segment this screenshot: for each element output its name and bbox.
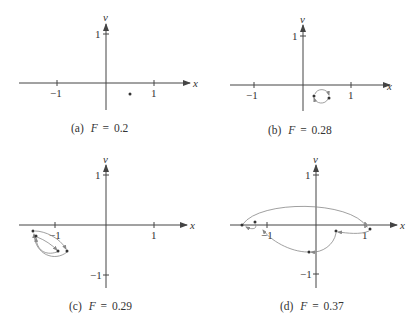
orbit-arc — [314, 98, 328, 103]
orbit-point — [254, 221, 257, 224]
tick-label-v-neg1: −1 — [90, 269, 102, 281]
caption-c: (c) F = 0.29 — [69, 300, 132, 313]
tick-label-x-1: 1 — [348, 89, 354, 101]
tick-label-v-1: 1 — [305, 169, 311, 181]
panel-a: −1 1 1 x v (a) F = 0.2 — [19, 11, 198, 135]
orbit-point — [57, 250, 60, 253]
panel-c: −1 1 1 −1 x v (c) F = 0.29 — [19, 153, 195, 313]
orbit-point — [335, 230, 338, 233]
orbit-point — [313, 95, 316, 98]
v-axis-label: v — [300, 13, 305, 25]
orbit-point — [328, 97, 331, 100]
orbit-point — [32, 230, 35, 233]
tick-label-v-1: 1 — [95, 169, 101, 181]
figure-canvas: −1 1 1 x v (a) F = 0.2 −1 1 1 x v (b) F … — [0, 0, 415, 327]
tick-label-v-1: 1 — [95, 28, 101, 40]
orbit-point — [241, 224, 244, 227]
orbit-point — [129, 93, 132, 96]
tick-label-x-1: 1 — [151, 229, 157, 241]
tick-label-v-1: 1 — [292, 30, 298, 42]
orbit-arc — [243, 206, 367, 227]
orbit-arc — [315, 90, 329, 95]
tick-label-x-neg1: −1 — [50, 87, 62, 99]
tick-label-x-1: 1 — [151, 87, 157, 99]
v-axis-label: v — [313, 153, 318, 165]
caption-a: (a) F = 0.2 — [71, 122, 129, 135]
caption-d: (d) F = 0.37 — [280, 300, 344, 313]
orbit-point — [35, 235, 38, 238]
v-axis-label: v — [103, 153, 108, 165]
x-axis-label: x — [192, 77, 198, 89]
v-axis-label: v — [103, 11, 108, 23]
orbit-point — [66, 250, 69, 253]
orbit-point — [308, 251, 311, 254]
tick-label-x-neg1: −1 — [246, 89, 258, 101]
tick-label-x-1: 1 — [362, 229, 368, 241]
caption-b: (b) F = 0.28 — [268, 124, 332, 137]
x-axis-label: x — [386, 80, 392, 92]
orbit-point — [369, 228, 372, 231]
panel-b: −1 1 1 x v (b) F = 0.28 — [230, 13, 392, 137]
x-axis-label: x — [189, 219, 195, 231]
x-axis-label: x — [399, 219, 405, 231]
panel-d: −1 1 1 −1 x v (d) F = 0.37 — [230, 153, 405, 313]
orbit-arc — [311, 233, 336, 252]
tick-label-v-neg1: −1 — [300, 268, 312, 280]
